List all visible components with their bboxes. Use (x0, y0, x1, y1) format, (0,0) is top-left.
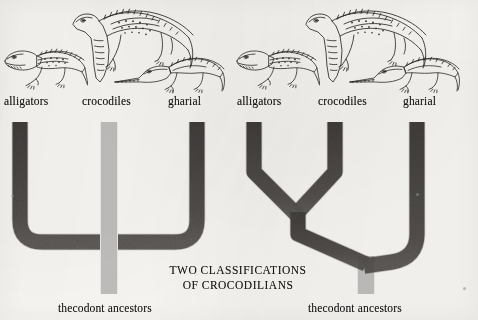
crocodilian-classification-figure: alligators crocodiles gharial alligators… (0, 0, 478, 320)
animal-illustration-band (0, 0, 478, 96)
taxon-label-gharial-left: gharial (168, 95, 201, 107)
scan-speck (463, 287, 466, 290)
figure-title: TWO CLASSIFICATIONS OF CROCODILIANS (168, 263, 308, 292)
taxon-label-crocodiles-right: crocodiles (318, 95, 367, 107)
scan-speck (416, 193, 419, 196)
figure-title-line-2: OF CROCODILIANS (168, 278, 308, 293)
gharial-illustration (113, 40, 225, 96)
taxon-label-crocodiles-left: crocodiles (82, 95, 131, 107)
scan-speck (11, 195, 14, 197)
taxon-label-gharial-right: gharial (403, 95, 436, 107)
taxon-label-alligators-left: alligators (4, 95, 48, 107)
gharial-illustration (348, 40, 460, 96)
figure-title-line-1: TWO CLASSIFICATIONS (168, 263, 308, 278)
root-label-left: thecodont ancestors (58, 302, 152, 314)
root-label-right: thecodont ancestors (308, 302, 402, 314)
taxon-label-alligators-right: alligators (237, 95, 281, 107)
